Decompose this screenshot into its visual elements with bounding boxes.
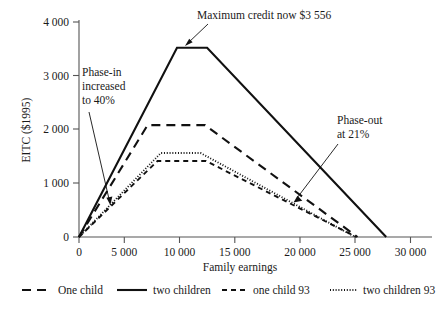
- axis-group: [73, 20, 432, 243]
- legend-item-two-children[interactable]: two children: [117, 284, 211, 296]
- legend-label-two-children: two children: [153, 284, 211, 296]
- annotation-phase-in: Phase-in increased to 40%: [82, 66, 126, 205]
- annotation-phase-in-line2: increased: [82, 80, 126, 92]
- x-tick-label-15000: 15 000: [219, 246, 251, 258]
- y-axis-title: EITC ($1995): [20, 97, 33, 162]
- annotation-phase-out-leader: [297, 144, 338, 198]
- annotation-phase-out-line2: at 21%: [337, 128, 370, 140]
- legend: One child two children one child 93 two …: [22, 284, 435, 296]
- annotation-phase-in-arrowhead: [106, 196, 112, 205]
- annotation-phase-in-line3: to 40%: [82, 94, 115, 106]
- y-tick-label-3000: 3 000: [43, 70, 69, 82]
- series-line-two-children-93: [79, 153, 355, 237]
- legend-item-one-child-93[interactable]: one child 93: [222, 284, 310, 296]
- y-tick-label-0: 0: [63, 231, 69, 243]
- series-line-one-child-93: [79, 161, 356, 237]
- x-tick-label-0: 0: [76, 246, 82, 258]
- annotation-max-credit: Maximum credit now $3 556: [185, 9, 331, 46]
- y-tick-label-1000: 1 000: [43, 177, 69, 189]
- x-tick-label-30000: 30 000: [395, 246, 427, 258]
- series-line-one-child: [79, 125, 358, 237]
- legend-label-two-children-93: two children 93: [363, 284, 435, 296]
- x-tick-labels: 0 5 000 10 000 15 000 20 000 25 000 30 0…: [76, 246, 426, 258]
- annotation-phase-out: Phase-out at 21%: [294, 114, 384, 203]
- chart-canvas: 4 000 3 000 2 000 1 000 0 0 5 000 10 000…: [0, 0, 448, 315]
- y-tick-label-2000: 2 000: [43, 123, 69, 135]
- x-tick-label-10000: 10 000: [164, 246, 196, 258]
- eitc-chart: 4 000 3 000 2 000 1 000 0 0 5 000 10 000…: [0, 0, 448, 315]
- annotation-phase-in-leader: [89, 112, 109, 199]
- x-tick-label-5000: 5 000: [111, 246, 137, 258]
- legend-item-two-children-93[interactable]: two children 93: [330, 284, 435, 296]
- legend-label-one-child-93: one child 93: [253, 284, 310, 296]
- x-tick-marks: [79, 237, 411, 243]
- annotation-phase-out-line1: Phase-out: [337, 114, 383, 126]
- y-tick-labels: 4 000 3 000 2 000 1 000 0: [43, 16, 69, 243]
- x-tick-label-25000: 25 000: [339, 246, 371, 258]
- series-group: [79, 48, 386, 237]
- x-axis-title: Family earnings: [203, 261, 278, 274]
- legend-item-one-child[interactable]: One child: [22, 284, 103, 296]
- legend-label-one-child: One child: [58, 284, 103, 296]
- y-tick-label-4000: 4 000: [43, 16, 69, 28]
- y-tick-marks: [73, 22, 79, 237]
- x-tick-label-20000: 20 000: [284, 246, 316, 258]
- series-line-two-children: [79, 48, 386, 237]
- annotation-max-credit-text: Maximum credit now $3 556: [197, 9, 331, 21]
- annotation-phase-in-line1: Phase-in: [82, 66, 122, 78]
